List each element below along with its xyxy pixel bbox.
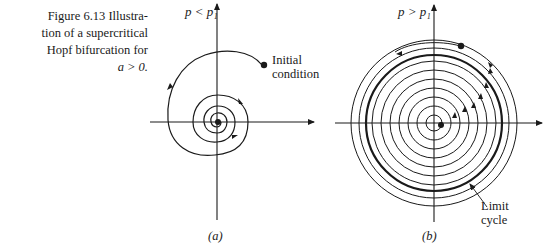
panel-b: p > p₁ Limit cycle (b)	[335, 4, 542, 243]
annotation-cycle: cycle	[481, 213, 508, 227]
annotation-initial: Initial	[272, 53, 302, 67]
initial-condition-point-b	[458, 43, 464, 49]
sublabel-b: (b)	[422, 229, 437, 243]
spiral-trajectory-a	[168, 51, 262, 155]
initial-condition-point	[261, 62, 267, 68]
annotation-condition: condition	[272, 67, 320, 81]
annotation-limit: Limit	[481, 199, 509, 213]
equilibrium-point-b	[438, 122, 444, 128]
bifurcation-diagram: p < p₁ Initial condition (a)	[0, 0, 546, 245]
axis-label-a: p < p₁	[184, 4, 218, 19]
flow-arrows-a	[167, 83, 243, 139]
panel-a: p < p₁ Initial condition (a)	[150, 4, 320, 243]
axis-label-b: p > p₁	[397, 4, 431, 19]
equilibrium-point-a	[215, 119, 221, 125]
sublabel-a: (a)	[208, 229, 223, 243]
flow-arrows-b	[396, 51, 493, 118]
